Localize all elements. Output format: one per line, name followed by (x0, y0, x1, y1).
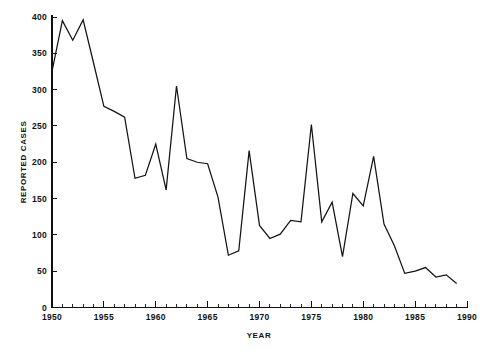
y-tick-label: 100 (32, 230, 47, 240)
y-tick-label: 250 (32, 121, 47, 131)
x-tick-label: 1975 (301, 312, 321, 322)
x-tick-label: 1985 (405, 312, 425, 322)
chart-container: 050100150200250300350400 195019551960196… (0, 0, 488, 353)
y-tick-label: 0 (42, 303, 47, 313)
x-tick-label: 1980 (353, 312, 373, 322)
x-tick-label: 1990 (457, 312, 477, 322)
data-series-line (52, 20, 457, 284)
y-tick-label: 300 (32, 85, 47, 95)
y-tick-label: 200 (32, 157, 47, 167)
y-axis-title: REPORTED CASES (19, 121, 28, 204)
y-tick-label: 350 (32, 48, 47, 58)
y-tick-label: 50 (37, 266, 47, 276)
y-tick-label: 150 (32, 194, 47, 204)
line-chart: 050100150200250300350400 195019551960196… (0, 0, 488, 353)
x-axis-tick-labels: 195019551960196519701975198019851990 (42, 312, 477, 322)
x-tick-label: 1960 (146, 312, 166, 322)
x-tick-label: 1965 (198, 312, 218, 322)
y-axis-tick-labels: 050100150200250300350400 (32, 12, 47, 313)
x-axis-title: YEAR (247, 331, 272, 340)
x-tick-label: 1950 (42, 312, 62, 322)
y-tick-label: 400 (32, 12, 47, 22)
x-tick-label: 1970 (249, 312, 269, 322)
x-tick-label: 1955 (94, 312, 114, 322)
